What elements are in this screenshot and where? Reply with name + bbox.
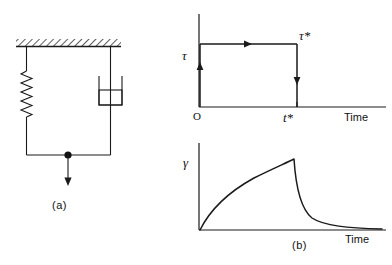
plots-svg	[190, 0, 392, 265]
label-time-axis-stress: Time	[344, 111, 368, 123]
caption-b: (b)	[292, 239, 307, 251]
arrow-right-marker	[244, 41, 252, 48]
panel-a-mechanical-model: (a)	[0, 0, 196, 265]
fixed-support-ceiling	[16, 39, 121, 47]
label-time-axis-strain: Time	[345, 233, 369, 245]
label-t-star: t*	[283, 110, 293, 126]
panel-b-plots	[190, 0, 392, 265]
arrow-down-marker	[294, 77, 301, 85]
arrow-up-marker	[197, 62, 204, 70]
label-tau-star: τ*	[299, 28, 310, 44]
stress-pulse-path	[200, 44, 297, 107]
mechanical-model-svg	[0, 0, 196, 265]
strain-curve	[200, 159, 382, 230]
applied-load-arrow	[64, 155, 71, 186]
caption-a: (a)	[52, 199, 67, 211]
dashpot-branch	[99, 47, 122, 156]
label-gamma: γ	[183, 155, 188, 171]
label-origin: O	[193, 110, 201, 122]
figure-root: (a)	[0, 0, 392, 265]
label-tau: τ	[182, 48, 187, 64]
chart-strain-response	[199, 143, 386, 230]
spring-element	[21, 71, 32, 117]
chart-stress-input	[197, 14, 386, 107]
spring-branch	[21, 47, 32, 156]
